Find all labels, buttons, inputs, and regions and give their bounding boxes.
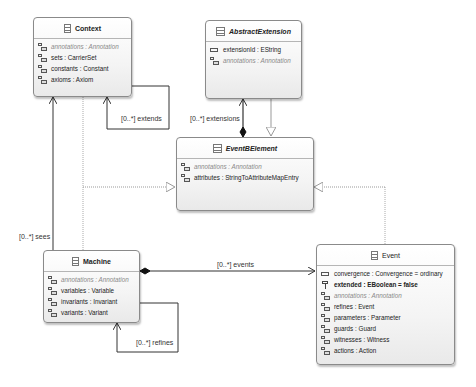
reference-icon: [321, 336, 330, 344]
feature-label: witnesses : Witness: [334, 336, 389, 343]
reference-icon: [38, 43, 47, 51]
feature-label: attributes : StringToAttributeMapEntry: [194, 174, 299, 181]
boolean-attribute-icon: [321, 281, 330, 289]
eclass-icon: [371, 251, 378, 260]
feature-row[interactable]: constants : Constant: [34, 63, 131, 74]
class-abstract-extension[interactable]: AbstractExtension extensionId : EString …: [205, 20, 302, 99]
reference-icon: [321, 292, 330, 300]
class-name: AbstractExtension: [229, 28, 291, 35]
class-name: Context: [75, 25, 101, 32]
eclass-icon: [64, 24, 71, 33]
feature-row[interactable]: variables : Variable: [44, 285, 139, 296]
class-name: Event: [382, 252, 400, 259]
class-eventb-element[interactable]: EventBElement annotations : Annotation a…: [176, 137, 314, 211]
reference-icon: [48, 298, 57, 306]
feature-label: actions : Action: [334, 347, 376, 354]
class-context-header: Context: [34, 18, 131, 39]
feature-row[interactable]: sets : CarrierSet: [34, 52, 131, 63]
edge-generalization-event: [314, 187, 385, 244]
label-refines: [0..*] refines: [136, 339, 173, 346]
reference-icon: [321, 325, 330, 333]
reference-icon: [321, 347, 330, 355]
feature-row[interactable]: annotations : Annotation: [44, 274, 139, 285]
feature-row[interactable]: annotations : Annotation: [34, 41, 131, 52]
feature-row[interactable]: axioms : Axiom: [34, 74, 131, 85]
reference-icon: [48, 287, 57, 295]
feature-row[interactable]: attributes : StringToAttributeMapEntry: [177, 172, 313, 183]
feature-label: variants : Variant: [61, 309, 108, 316]
feature-row[interactable]: actions : Action: [317, 345, 454, 356]
feature-label: annotations : Annotation: [51, 43, 119, 50]
abstract-eclass-icon: [216, 27, 225, 36]
feature-row[interactable]: refines : Event: [317, 301, 454, 312]
reference-icon: [321, 303, 330, 311]
class-eventb-element-header: EventBElement: [177, 138, 313, 159]
reference-icon: [38, 65, 47, 73]
class-name: EventBElement: [226, 145, 277, 152]
label-sees: [0..*] sees: [19, 233, 50, 240]
class-context[interactable]: Context annotations : Annotation sets : …: [33, 17, 132, 97]
reference-icon: [210, 57, 219, 65]
feature-row[interactable]: witnesses : Witness: [317, 334, 454, 345]
class-abstract-extension-header: AbstractExtension: [206, 21, 301, 42]
feature-row[interactable]: extended : EBoolean = false: [317, 279, 454, 290]
reference-icon: [181, 174, 190, 182]
class-event-header: Event: [317, 245, 454, 266]
class-machine-header: Machine: [44, 251, 139, 272]
feature-row[interactable]: annotations : Annotation: [177, 161, 313, 172]
feature-row[interactable]: annotations : Annotation: [317, 290, 454, 301]
attribute-icon: [210, 46, 219, 54]
reference-icon: [181, 163, 190, 171]
eclass-icon: [72, 257, 79, 266]
feature-label: annotations : Annotation: [334, 292, 402, 299]
class-event[interactable]: Event convergence : Convergence = ordina…: [316, 244, 455, 365]
feature-row[interactable]: convergence : Convergence = ordinary: [317, 268, 454, 279]
feature-label: extensionId : EString: [223, 46, 281, 53]
reference-icon: [48, 276, 57, 284]
feature-label: annotations : Annotation: [223, 57, 291, 64]
feature-label: convergence : Convergence = ordinary: [334, 270, 443, 277]
feature-label: parameters : Parameter: [334, 314, 401, 321]
feature-row[interactable]: invariants : Invariant: [44, 296, 139, 307]
feature-label: annotations : Annotation: [194, 163, 262, 170]
feature-label: constants : Constant: [51, 65, 108, 72]
feature-row[interactable]: parameters : Parameter: [317, 312, 454, 323]
class-machine[interactable]: Machine annotations : Annotation variabl…: [43, 250, 140, 323]
label-events: [0..*] events: [217, 261, 254, 268]
feature-row[interactable]: extensionId : EString: [206, 44, 301, 55]
feature-label: invariants : Invariant: [61, 298, 117, 305]
feature-row[interactable]: guards : Guard: [317, 323, 454, 334]
feature-label: guards : Guard: [334, 325, 376, 332]
attribute-icon: [321, 270, 330, 278]
reference-icon: [48, 309, 57, 317]
feature-label: refines : Event: [334, 303, 374, 310]
label-extensions: [0..*] extensions: [190, 115, 240, 122]
feature-label: variables : Variable: [61, 287, 114, 294]
label-extends: [0..*] extends: [121, 115, 162, 122]
feature-label: annotations : Annotation: [61, 276, 129, 283]
reference-icon: [321, 314, 330, 322]
class-name: Machine: [83, 258, 111, 265]
feature-label: extended : EBoolean = false: [334, 281, 418, 288]
feature-row[interactable]: annotations : Annotation: [206, 55, 301, 66]
reference-icon: [38, 76, 47, 84]
feature-label: sets : CarrierSet: [51, 54, 97, 61]
abstract-eclass-icon: [213, 144, 222, 153]
feature-label: axioms : Axiom: [51, 76, 93, 83]
feature-row[interactable]: variants : Variant: [44, 307, 139, 318]
reference-icon: [38, 54, 47, 62]
